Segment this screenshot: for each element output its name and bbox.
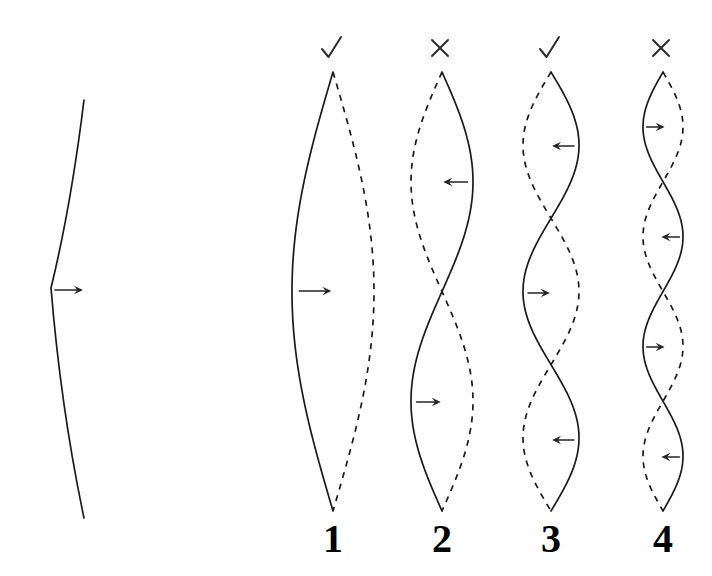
verdict-mark-1: [322, 37, 341, 57]
verdict-mark-4: [653, 40, 669, 56]
mode-number-1: 1: [323, 516, 343, 561]
mode-4-solid-curve: [643, 72, 683, 511]
mode-number-4: 4: [653, 516, 673, 561]
mode-1-arrows: [299, 287, 331, 295]
mode-number-2: 2: [432, 516, 452, 561]
mode-group-4: 4: [643, 40, 683, 561]
mode-1-dashed-curve: [333, 72, 374, 511]
verdict-mark-3: [540, 37, 559, 57]
mode-2-dashed-curve: [411, 72, 473, 511]
plucked-string-figure: [51, 100, 84, 518]
plucked-string-curve: [51, 100, 84, 518]
displacement-arrow-left-panel: [55, 286, 83, 294]
mode-3-arrows: [528, 142, 574, 444]
mode-3-dashed-curve: [523, 72, 579, 511]
verdict-mark-2: [432, 40, 448, 56]
figure-canvas: 1 2 3 4: [0, 0, 712, 576]
check-icon: [540, 37, 559, 57]
mode-number-3: 3: [541, 516, 561, 561]
mode-group-1: 1: [292, 37, 374, 561]
check-icon: [322, 37, 341, 57]
mode-group-2: 2: [411, 40, 473, 561]
mode-group-3: 3: [523, 37, 579, 561]
mode-3-solid-curve: [523, 72, 579, 511]
